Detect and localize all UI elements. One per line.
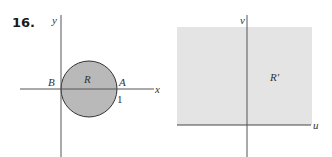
v-axis-label: v [240, 14, 245, 26]
y-axis-label: y [51, 14, 57, 26]
x-axis-label: x [154, 83, 160, 95]
problem-number: 16. [12, 15, 35, 30]
point-a-label: A [118, 76, 126, 88]
region-r-label: R [83, 73, 91, 85]
point-b-label: B [48, 76, 55, 88]
region-r-prime-label: R′ [269, 71, 280, 83]
u-axis-label: u [313, 119, 319, 131]
tick-label-one: 1 [117, 93, 123, 105]
region-r-prime-rect [177, 27, 312, 125]
left-figure: x y R B A 1 [20, 14, 160, 157]
figure-canvas: 16. x y R B A 1 u v R′ [0, 0, 332, 157]
right-figure: u v R′ [177, 14, 319, 157]
